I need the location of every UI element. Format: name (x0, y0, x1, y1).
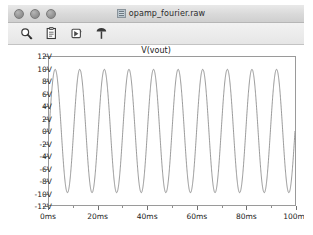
y-axis-tick (43, 81, 48, 82)
y-axis-tick (43, 69, 48, 70)
x-axis-minor-tick (271, 206, 272, 208)
x-axis-tick (246, 206, 247, 210)
y-axis-tick (43, 94, 48, 95)
cursor-tool-icon[interactable] (69, 27, 83, 41)
y-axis-tick (43, 181, 48, 182)
y-axis-tick (43, 144, 48, 145)
x-axis-label: 80ms (236, 212, 257, 221)
zoom-tool-icon[interactable] (19, 27, 33, 41)
x-axis-minor-tick (172, 206, 173, 208)
x-axis-label: 60ms (186, 212, 207, 221)
x-axis-minor-tick (222, 206, 223, 208)
window-title: opamp_fourier.raw (129, 9, 206, 18)
pin-tool-icon[interactable] (94, 27, 108, 41)
x-axis-tick (98, 206, 99, 210)
toolbar (8, 23, 304, 45)
x-axis-tick (197, 206, 198, 210)
window-controls (14, 5, 56, 22)
plot-window: opamp_fourier.raw (8, 5, 304, 231)
raw-file-icon (117, 9, 126, 18)
x-axis-minor-tick (73, 206, 74, 208)
plot-title: V(vout) (8, 46, 304, 55)
y-axis-tick (43, 106, 48, 107)
y-axis-tick (43, 156, 48, 157)
minimize-button[interactable] (30, 9, 40, 19)
y-axis-tick (43, 131, 48, 132)
plot-panel: V(vout) 12V10V8V6V4V2V0V-2V-4V-6V-8V-10V… (8, 45, 304, 232)
x-axis-label: 40ms (137, 212, 158, 221)
x-axis-minor-tick (122, 206, 123, 208)
close-button[interactable] (14, 9, 24, 19)
y-axis-tick (43, 119, 48, 120)
waveform-plot (49, 57, 295, 205)
x-axis-label: 100ms (283, 212, 304, 221)
zoom-button[interactable] (46, 9, 56, 19)
y-axis-tick (43, 169, 48, 170)
window-title-group: opamp_fourier.raw (107, 9, 206, 18)
x-axis-tick (48, 206, 49, 210)
graph-frame[interactable] (48, 56, 296, 206)
y-axis-tick (43, 194, 48, 195)
x-axis-label: 20ms (87, 212, 108, 221)
waveform-trace (49, 69, 295, 192)
x-axis-tick (296, 206, 297, 210)
x-axis-label: 0ms (40, 212, 56, 221)
window-titlebar[interactable]: opamp_fourier.raw (8, 5, 304, 23)
x-axis-tick (147, 206, 148, 210)
y-axis-tick (43, 56, 48, 57)
copy-bitmap-icon[interactable] (44, 27, 58, 41)
